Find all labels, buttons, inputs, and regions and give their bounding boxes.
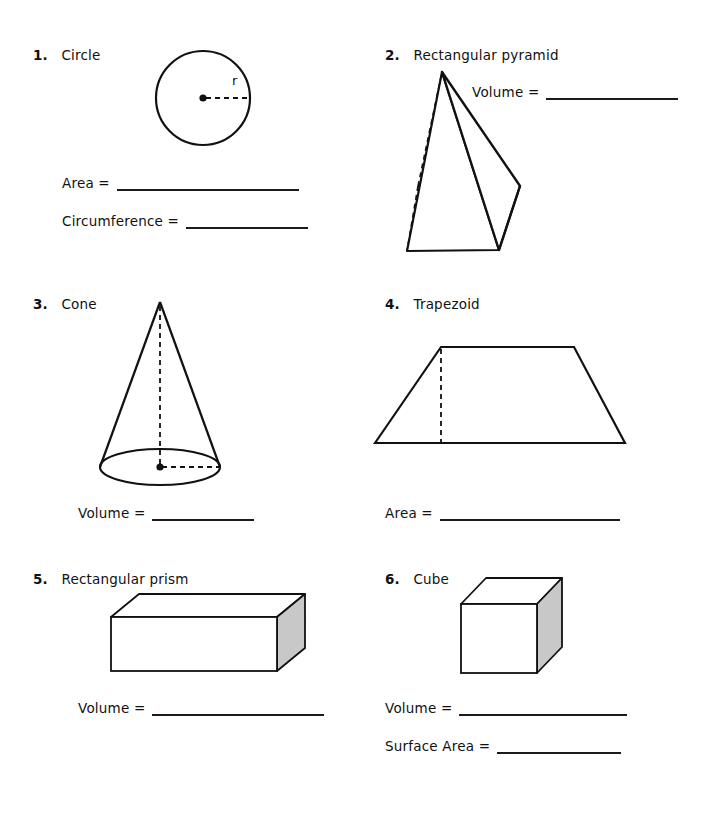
answer-blank-volume[interactable]: [459, 702, 627, 716]
problem-6-title: Cube: [413, 571, 449, 587]
problem-6-heading: 6. Cube: [385, 571, 449, 587]
cube-front-face: [461, 604, 537, 673]
problem-6-number: 6.: [385, 571, 400, 587]
cube-figure: [455, 568, 565, 680]
answer-label-volume: Volume =: [385, 700, 452, 716]
answer-blank-surface-area[interactable]: [497, 740, 621, 754]
problem-6-cube: 6. Cube Volume = Surface Area =: [0, 0, 702, 790]
answer-label-surface-area: Surface Area =: [385, 738, 490, 754]
problem-6-answer-volume: Volume =: [385, 700, 627, 716]
problem-6-answer-surface-area: Surface Area =: [385, 738, 621, 754]
